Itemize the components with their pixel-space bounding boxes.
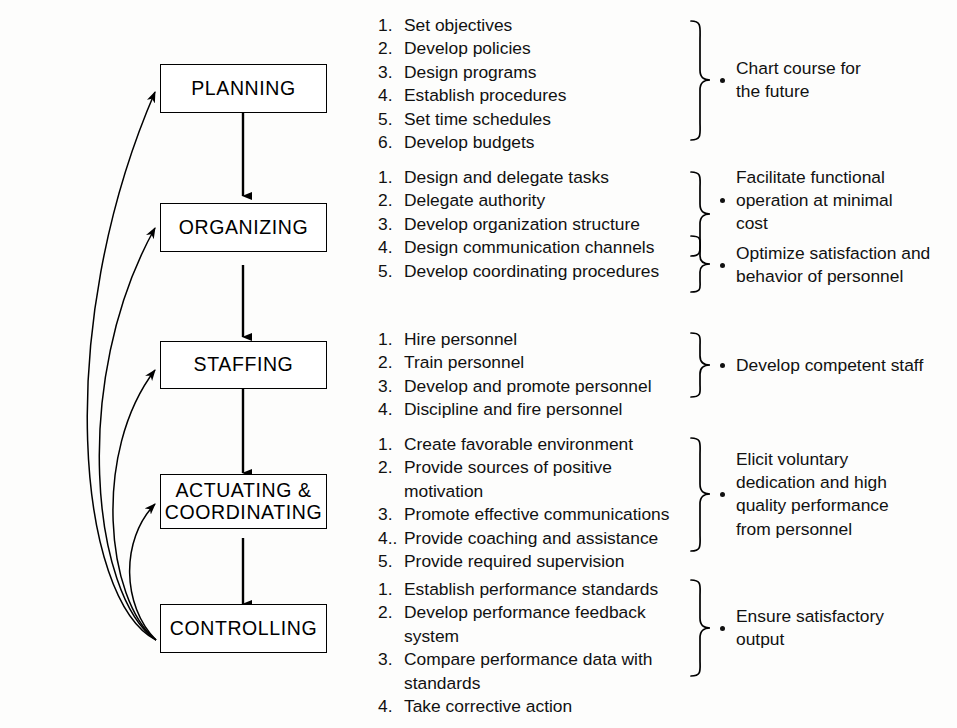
brace-organizing-2: [691, 236, 710, 292]
outcome-text: Elicit voluntary dedication and high qua…: [736, 448, 945, 541]
task-number: 4.: [378, 398, 404, 421]
task-item: 5. Set time schedules: [378, 108, 678, 131]
task-text: Hire personnel: [404, 328, 688, 351]
task-text: Set time schedules: [404, 108, 678, 131]
task-text-continuation: system: [378, 625, 688, 648]
outcome-line: Facilitate functional: [736, 166, 945, 189]
task-list-controlling: 1. Establish performance standards 2. De…: [378, 578, 688, 718]
task-text: Establish performance standards: [404, 578, 688, 601]
task-text: Develop budgets: [404, 131, 678, 154]
task-item: 1. Establish performance standards: [378, 578, 688, 601]
stage-box-organizing[interactable]: ORGANIZING: [160, 203, 327, 252]
outcome-line: Ensure satisfactory: [736, 605, 945, 628]
feedback-arcs: [87, 92, 156, 640]
task-number: 3.: [378, 213, 404, 236]
task-text: Promote effective communications: [404, 503, 688, 526]
stage-box-staffing[interactable]: STAFFING: [160, 341, 327, 389]
task-text: Train personnel: [404, 351, 688, 374]
task-number: 3.: [378, 503, 404, 526]
task-item: 4. Establish procedures: [378, 84, 678, 107]
outcome-line: Develop competent staff: [736, 354, 950, 377]
stage-label-coordinating: COORDINATING: [165, 502, 322, 524]
task-number: 6.: [378, 131, 404, 154]
task-list-staffing: 1. Hire personnel 2. Train personnel 3. …: [378, 328, 688, 422]
stage-label-organizing: ORGANIZING: [179, 217, 309, 239]
task-text: Develop coordinating procedures: [404, 260, 688, 283]
task-list-planning: 1. Set objectives 2. Develop policies 3.…: [378, 14, 678, 154]
stage-box-controlling[interactable]: CONTROLLING: [160, 604, 327, 653]
outcome-line: quality performance: [736, 494, 945, 517]
task-text: Create favorable environment: [404, 433, 688, 456]
bullet-icon: [720, 626, 725, 631]
outcome-text: Facilitate functional operation at minim…: [736, 166, 945, 236]
task-text: Design programs: [404, 61, 678, 84]
task-item: 1. Create favorable environment: [378, 433, 688, 456]
task-item: 1. Design and delegate tasks: [378, 166, 688, 189]
task-number: 4.: [378, 84, 404, 107]
task-text: Delegate authority: [404, 189, 688, 212]
outcome-text: Chart course for the future: [736, 57, 945, 103]
task-number: 4.: [378, 236, 404, 259]
task-text: Design communication channels: [404, 236, 688, 259]
task-item: 5. Provide required supervision: [378, 550, 688, 573]
task-number: 5.: [378, 108, 404, 131]
task-number: 3.: [378, 375, 404, 398]
stage-label-planning: PLANNING: [191, 78, 296, 100]
task-item: 6. Develop budgets: [378, 131, 678, 154]
task-number: 1.: [378, 328, 404, 351]
stage-box-actuating-coordinating[interactable]: ACTUATING & COORDINATING: [160, 474, 327, 529]
task-text-continuation: motivation: [378, 480, 688, 503]
task-text: Set objectives: [404, 14, 678, 37]
task-item: 3. Compare performance data with: [378, 648, 688, 671]
task-number: 2.: [378, 351, 404, 374]
bullet-icon: [720, 198, 725, 203]
outcome-line: from personnel: [736, 518, 945, 541]
brace-controlling: [691, 580, 710, 676]
task-number: 1.: [378, 433, 404, 456]
brace-staffing: [691, 333, 710, 397]
task-text: Develop performance feedback: [404, 601, 688, 624]
task-item: 2. Develop performance feedback: [378, 601, 688, 624]
outcome-text: Develop competent staff: [736, 354, 950, 377]
stage-box-planning[interactable]: PLANNING: [160, 64, 327, 113]
outcome-line: Elicit voluntary: [736, 448, 945, 471]
task-item: 3. Develop and promote personnel: [378, 375, 688, 398]
feedback-arc-to-organizing: [99, 228, 156, 640]
task-number: 2.: [378, 37, 404, 60]
task-text: Discipline and fire personnel: [404, 398, 688, 421]
outcome-text: Ensure satisfactory output: [736, 605, 945, 651]
task-number: 5.: [378, 550, 404, 573]
task-item: 3. Develop organization structure: [378, 213, 688, 236]
task-list-actuating-coordinating: 1. Create favorable environment 2. Provi…: [378, 433, 688, 573]
task-number: 3.: [378, 648, 404, 671]
outcome-line: Optimize satisfaction and: [736, 242, 955, 265]
task-item: 2. Delegate authority: [378, 189, 688, 212]
stage-label-actuating: ACTUATING &: [175, 480, 311, 502]
task-text: Compare performance data with: [404, 648, 688, 671]
task-item: 3. Promote effective communications: [378, 503, 688, 526]
bullet-icon: [720, 78, 725, 83]
task-item: 2. Provide sources of positive: [378, 456, 688, 479]
outcome-organizing-1: Facilitate functional operation at minim…: [720, 166, 945, 236]
outcome-line: behavior of personnel: [736, 265, 955, 288]
outcome-controlling: Ensure satisfactory output: [720, 605, 945, 651]
task-number: 1.: [378, 166, 404, 189]
brace-planning: [691, 21, 710, 140]
task-text: Develop organization structure: [404, 213, 688, 236]
bullet-icon: [720, 263, 725, 268]
bullet-icon: [720, 363, 725, 368]
task-text-continuation: standards: [378, 672, 688, 695]
feedback-arc-to-planning: [87, 92, 156, 640]
outcome-text: Optimize satisfaction and behavior of pe…: [736, 242, 955, 288]
task-number: 2.: [378, 189, 404, 212]
outcome-actuating-coordinating: Elicit voluntary dedication and high qua…: [720, 448, 945, 541]
task-list-organizing: 1. Design and delegate tasks 2. Delegate…: [378, 166, 688, 283]
task-number: 4.: [378, 695, 404, 718]
task-text: Develop policies: [404, 37, 678, 60]
outcome-line: the future: [736, 80, 945, 103]
task-number: 2.: [378, 601, 404, 624]
task-item: 4. Discipline and fire personnel: [378, 398, 688, 421]
task-number: 2.: [378, 456, 404, 479]
task-text: Take corrective action: [404, 695, 688, 718]
task-text: Establish procedures: [404, 84, 678, 107]
